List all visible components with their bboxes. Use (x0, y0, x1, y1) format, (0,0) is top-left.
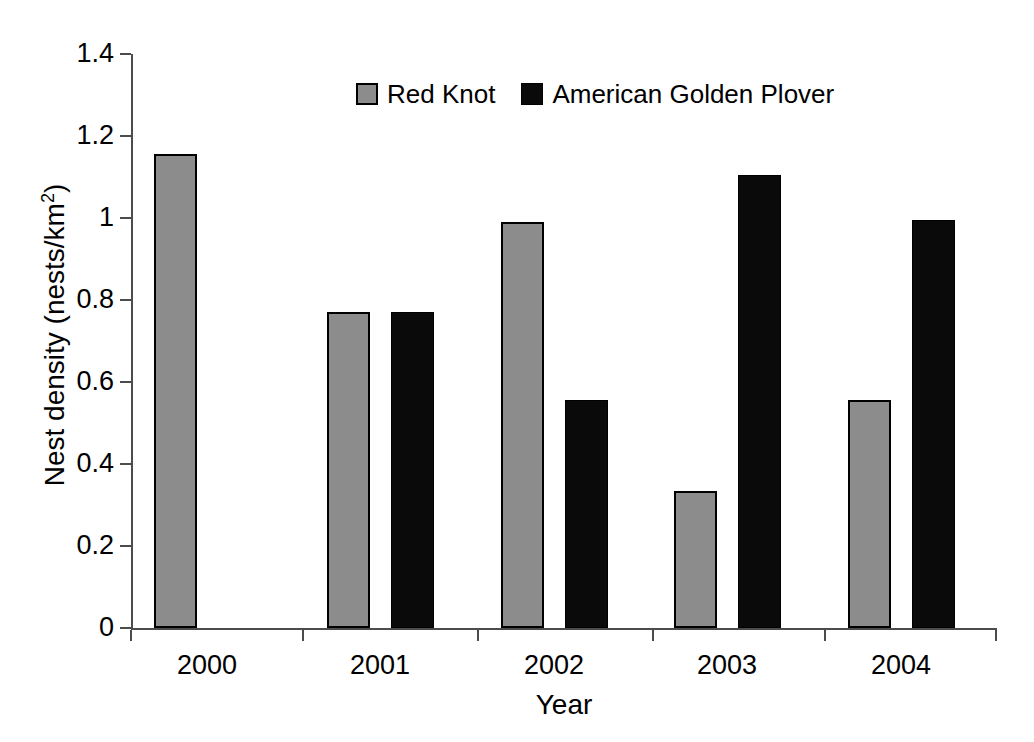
x-tick-mark (130, 630, 132, 641)
bar (565, 400, 608, 628)
x-tick-label: 2003 (657, 650, 797, 680)
x-tick-mark (824, 630, 826, 641)
x-axis-line (131, 628, 997, 630)
bar (738, 175, 781, 628)
legend-entry: Red Knot (356, 80, 495, 108)
y-axis-title-text: Nest density (nests/km (39, 203, 70, 486)
legend-entry: American Golden Plover (521, 80, 834, 108)
bar (674, 491, 717, 628)
legend-label: Red Knot (387, 80, 495, 108)
bar (501, 222, 544, 628)
bar (848, 400, 891, 628)
y-tick-label: 0 (50, 614, 114, 641)
y-axis-title: Nest density (nests/km2) (40, 75, 70, 595)
y-axis-line (131, 54, 133, 629)
x-tick-mark (302, 630, 304, 641)
x-tick-label: 2000 (137, 650, 277, 680)
y-tick-mark (120, 53, 131, 55)
bar-chart-figure: 1.41.210.80.60.40.20 2000200120022003200… (0, 0, 1034, 742)
legend-label: American Golden Plover (552, 80, 834, 108)
bar (912, 220, 955, 628)
y-tick-mark (120, 381, 131, 383)
y-axis-title-close: ) (39, 184, 70, 193)
bar (391, 312, 434, 628)
bar (327, 312, 370, 628)
y-tick-mark (120, 217, 131, 219)
y-tick-mark (120, 135, 131, 137)
x-tick-label: 2004 (831, 650, 971, 680)
x-tick-label: 2001 (310, 650, 450, 680)
y-tick-label: 1.4 (50, 40, 114, 67)
y-tick-mark (120, 463, 131, 465)
legend-swatch-icon (521, 83, 543, 105)
x-tick-mark (652, 630, 654, 641)
x-tick-mark (477, 630, 479, 641)
y-tick-mark (120, 545, 131, 547)
x-axis-title: Year (131, 690, 997, 720)
x-tick-label: 2002 (484, 650, 624, 680)
legend: Red KnotAmerican Golden Plover (356, 80, 834, 108)
bar (154, 154, 197, 628)
y-tick-mark (120, 627, 131, 629)
y-tick-mark (120, 299, 131, 301)
legend-swatch-icon (356, 83, 378, 105)
y-axis-title-exponent: 2 (38, 193, 58, 203)
x-tick-mark (995, 630, 997, 641)
